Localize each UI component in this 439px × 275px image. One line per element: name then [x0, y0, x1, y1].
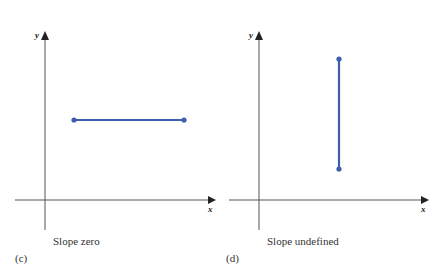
x-axis-arrow-icon	[421, 196, 429, 204]
endpoint-dot-icon	[336, 56, 341, 61]
y-axis-label: y	[35, 30, 39, 40]
endpoint-dot-icon	[181, 117, 186, 122]
y-axis-arrow-icon	[41, 31, 49, 40]
x-axis-arrow-icon	[208, 196, 216, 204]
panel-d-axes	[229, 31, 429, 230]
panel-tag: (c)	[15, 252, 27, 264]
endpoint-dot-icon	[336, 166, 341, 171]
panel-caption: Slope undefined	[267, 235, 339, 247]
endpoint-dot-icon	[71, 117, 76, 122]
x-axis-label: x	[208, 204, 213, 214]
panel-c-segment	[71, 117, 186, 122]
y-axis-arrow-icon	[255, 31, 263, 40]
panel-d-segment	[336, 56, 341, 171]
diagram-canvas	[0, 0, 439, 275]
panel-tag: (d)	[226, 252, 239, 264]
x-axis-label: x	[421, 204, 426, 214]
panel-caption: Slope zero	[53, 235, 100, 247]
y-axis-label: y	[249, 30, 253, 40]
panel-c-axes	[15, 31, 216, 230]
